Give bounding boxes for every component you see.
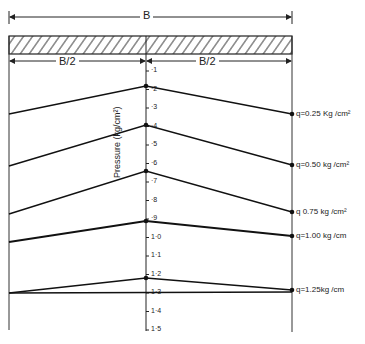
tick-label: ·5 bbox=[151, 140, 157, 147]
tick-label: ·6 bbox=[151, 159, 157, 166]
tick-label: ·1 bbox=[151, 66, 157, 73]
load-label-q-1-25: q=1.25kg /cm bbox=[296, 285, 344, 294]
tick-label: 1·4 bbox=[151, 307, 161, 314]
tick-label: ·3 bbox=[151, 103, 157, 110]
tick-label: 1·0 bbox=[151, 233, 161, 240]
tick-label: ·4 bbox=[151, 122, 157, 129]
load-label-q-1-00: q=1.00 kg /cm bbox=[296, 231, 346, 240]
tick-label: ·7 bbox=[151, 177, 157, 184]
load-label-q-0-25: q=0.25 Kg /cm² bbox=[296, 109, 350, 118]
data-points bbox=[144, 84, 295, 293]
tick-label: ·9 bbox=[151, 214, 157, 221]
load-label-q-0-50: q=0.50 kg /cm² bbox=[296, 160, 349, 169]
tick-label: 1·2 bbox=[151, 270, 161, 277]
axis-title: Pressure (kg/cm²) bbox=[112, 106, 122, 178]
label-half-left: B/2 bbox=[56, 55, 79, 67]
tick-label: 1·3 bbox=[151, 288, 161, 295]
load-label-q-0-75: q 0.75 kg /cm² bbox=[296, 207, 347, 216]
tick-label: 1·1 bbox=[151, 251, 161, 258]
tick-label: ·8 bbox=[151, 196, 157, 203]
label-half-right: B/2 bbox=[196, 55, 219, 67]
label-b: B bbox=[140, 9, 153, 21]
tick-label: ·2 bbox=[151, 85, 157, 92]
tick-label: 1·5 bbox=[151, 325, 161, 332]
footing bbox=[9, 36, 292, 54]
pressure-curves bbox=[9, 86, 292, 293]
